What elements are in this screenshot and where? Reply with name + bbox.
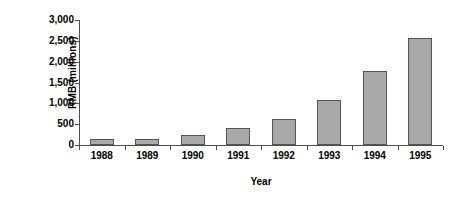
y-axis-tick-label: 2,000 [22, 57, 74, 67]
y-axis-tick-label: 500 [22, 119, 74, 129]
x-axis-tick-label: 1994 [364, 150, 386, 162]
y-axis-tick-label: 2,500 [22, 36, 74, 46]
y-axis-tick-labels: 05001,0001,5002,0002,5003,000 [22, 14, 74, 146]
bar-1993 [317, 100, 341, 145]
bar-1990 [181, 135, 205, 145]
plot-area [79, 20, 443, 145]
x-axis-tick-label: 1989 [136, 150, 158, 162]
bar-1991 [226, 128, 250, 146]
y-axis-tick-mark [75, 41, 79, 42]
x-axis-tick-label: 1995 [409, 150, 431, 162]
y-axis-tick-label: 0 [22, 140, 74, 150]
x-axis-tick-labels: 19881989199019911992199319941995 [79, 150, 443, 164]
bar-1988 [90, 139, 114, 145]
y-axis-tick-mark [75, 62, 79, 63]
bar-1995 [408, 38, 432, 146]
y-axis-line [79, 20, 80, 146]
bar-chart: RMB (millions) 05001,0001,5002,0002,5003… [0, 0, 467, 201]
bar-1994 [363, 71, 387, 145]
y-axis-tick-mark [75, 83, 79, 84]
bar-1992 [272, 119, 296, 145]
x-axis-tick-mark [443, 146, 444, 150]
x-axis-tick-label: 1988 [91, 150, 113, 162]
x-axis-tick-label: 1991 [227, 150, 249, 162]
y-axis-tick-mark [75, 20, 79, 21]
x-axis-tick-label: 1993 [318, 150, 340, 162]
x-axis-tick-label: 1992 [273, 150, 295, 162]
y-axis-tick-label: 1,500 [22, 78, 74, 88]
bar-1989 [135, 139, 159, 145]
y-axis-tick-mark [75, 124, 79, 125]
x-axis-title: Year [79, 176, 443, 187]
y-axis-tick-label: 1,000 [22, 98, 74, 108]
y-axis-tick-label: 3,000 [22, 15, 74, 25]
x-axis-tick-label: 1990 [182, 150, 204, 162]
y-axis-tick-mark [75, 103, 79, 104]
